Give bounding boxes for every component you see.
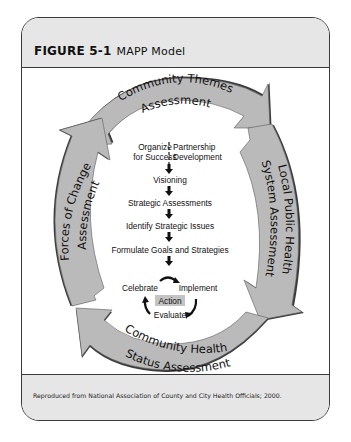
step-partnership-line2: Development xyxy=(173,152,223,162)
down-arrow-icon xyxy=(165,164,173,174)
cycle-action: Action xyxy=(158,296,181,306)
step-formulate: Formulate Goals and Strategies xyxy=(111,245,228,255)
down-arrow-icon xyxy=(165,186,173,196)
down-arrow-icon xyxy=(165,232,173,242)
down-arrow-icon xyxy=(165,209,173,219)
cycle-evaluate: Evaluate xyxy=(154,310,187,320)
cycle-celebrate: Celebrate xyxy=(122,283,158,293)
step-partnership-line1: Partnership xyxy=(173,142,216,152)
action-cycle: Celebrate Implement Action Evaluate xyxy=(122,277,218,320)
step-identify-issues: Identify Strategic Issues xyxy=(126,221,214,231)
down-arrow-icon xyxy=(165,256,173,266)
step-organize-line2: for Success xyxy=(133,152,176,162)
step-visioning: Visioning xyxy=(153,175,187,185)
cycle-implement: Implement xyxy=(179,283,218,293)
step-organize-line1: Organize xyxy=(138,142,172,152)
mapp-diagram: Community Themes Assessment Local Public… xyxy=(0,0,351,442)
step-strategic-assessments: Strategic Assessments xyxy=(128,198,212,208)
cycle-arrow-top-icon xyxy=(160,278,176,282)
